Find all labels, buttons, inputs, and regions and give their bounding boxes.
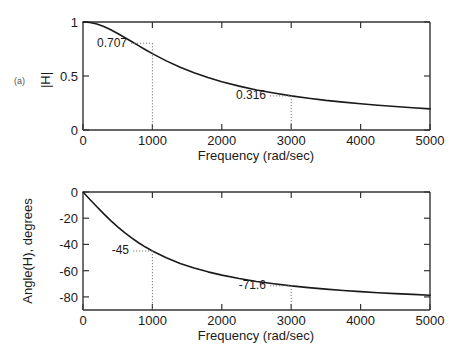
phase-ytick-m20: -20: [59, 211, 78, 226]
phase-xtick-4000: 4000: [346, 313, 375, 328]
magnitude-annotation-label-0316: 0.316: [236, 88, 266, 102]
phase-y-axis-title: Angle(H), degrees: [20, 198, 35, 304]
magnitude-x-axis-title: Frequency (rad/sec): [198, 148, 314, 163]
phase-xtick-5000: 5000: [416, 313, 445, 328]
magnitude-x-ticks: [83, 22, 430, 130]
magnitude-xtick-1000: 1000: [138, 133, 167, 148]
magnitude-xtick-2000: 2000: [207, 133, 236, 148]
phase-xtick-1000: 1000: [138, 313, 167, 328]
magnitude-ytick-0: 0: [71, 123, 78, 138]
magnitude-y-ticks: [83, 22, 430, 130]
magnitude-annotation-label-0707: 0.707: [97, 36, 127, 50]
magnitude-annotation-0707: 0.707: [97, 36, 152, 130]
figure-container: (a) 1 0.5 0: [0, 0, 463, 348]
phase-ytick-m80: -80: [59, 290, 78, 305]
magnitude-xtick-4000: 4000: [346, 133, 375, 148]
phase-x-axis-title: Frequency (rad/sec): [198, 328, 314, 343]
magnitude-ytick-05: 0.5: [60, 69, 78, 84]
magnitude-plot-svg: 1 0.5 0 |H| 0 1000 2: [0, 0, 463, 174]
magnitude-ytick-1: 1: [71, 15, 78, 30]
magnitude-xtick-0: 0: [79, 133, 86, 148]
phase-xtick-2000: 2000: [207, 313, 236, 328]
magnitude-x-ticklabels: 0 1000 2000 3000 4000 5000: [79, 133, 444, 148]
phase-plot-svg: 0 -20 -40 -60 -80 Angle(H), degrees: [0, 174, 463, 348]
panel-a-tag: (a): [14, 76, 25, 86]
phase-annotation-m45: -45: [112, 243, 153, 310]
panel-phase: (b) 0: [0, 174, 463, 348]
phase-xtick-0: 0: [79, 313, 86, 328]
magnitude-xtick-5000: 5000: [416, 133, 445, 148]
magnitude-y-ticklabels: 1 0.5 0: [60, 15, 78, 138]
magnitude-axes: [83, 22, 430, 130]
phase-annotation-label-m716: -71.6: [239, 278, 267, 292]
phase-annotation-m716: -71.6: [239, 278, 292, 310]
magnitude-xtick-3000: 3000: [277, 133, 306, 148]
phase-y-ticklabels: 0 -20 -40 -60 -80: [59, 185, 78, 305]
phase-xtick-3000: 3000: [277, 313, 306, 328]
phase-ytick-0: 0: [71, 185, 78, 200]
panel-magnitude: (a) 1 0.5 0: [0, 0, 463, 174]
phase-ytick-m60: -60: [59, 264, 78, 279]
phase-annotation-label-m45: -45: [112, 243, 130, 257]
phase-x-ticklabels: 0 1000 2000 3000 4000 5000: [79, 313, 444, 328]
phase-ytick-m40: -40: [59, 237, 78, 252]
magnitude-y-axis-title: |H|: [38, 72, 53, 88]
